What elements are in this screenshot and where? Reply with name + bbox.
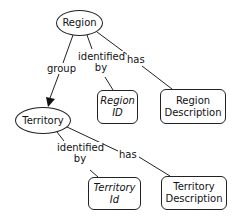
edge-label-territory-has: has	[119, 149, 137, 160]
node-territory-id[interactable]: Territory Id	[88, 177, 141, 210]
edge-label-region-has: has	[127, 54, 145, 65]
node-region-description-line2: Description	[165, 107, 222, 119]
node-region-label: Region	[62, 17, 96, 29]
edge-label-group: group	[47, 63, 76, 74]
edge-label-region-identified-by-line1: identified	[78, 51, 124, 62]
edge-label-territory-identified-by: identified by	[57, 142, 103, 164]
edge-label-territory-identified-by-line2: by	[57, 153, 103, 164]
edge-label-region-identified-by: identified by	[78, 51, 124, 73]
node-region-id-line1: Region	[100, 95, 135, 107]
edge-label-region-identified-by-line2: by	[78, 62, 124, 73]
node-territory-description[interactable]: Territory Description	[161, 176, 227, 210]
node-territory-description-line2: Description	[166, 193, 223, 205]
node-territory-id-line1: Territory	[93, 182, 135, 194]
node-territory-description-line1: Territory	[173, 181, 214, 193]
node-region-id-line2: ID	[112, 107, 123, 119]
node-territory-id-line2: Id	[110, 194, 119, 206]
node-region-description-line1: Region	[176, 95, 210, 107]
node-region-id[interactable]: Region ID	[97, 90, 138, 124]
node-territory[interactable]: Territory	[15, 107, 71, 134]
node-territory-label: Territory	[22, 115, 63, 127]
edge-label-territory-identified-by-line1: identified	[57, 142, 103, 153]
arrowhead-icon	[46, 97, 55, 107]
node-region[interactable]: Region	[56, 10, 103, 36]
node-region-description[interactable]: Region Description	[160, 89, 226, 124]
